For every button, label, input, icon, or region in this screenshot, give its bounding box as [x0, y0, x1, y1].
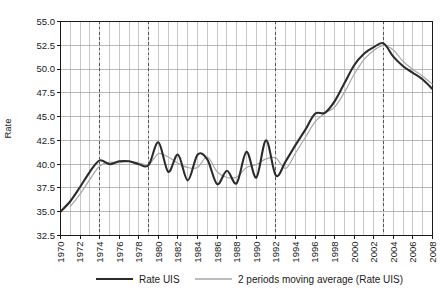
x-tick-label: 1988	[231, 241, 242, 262]
chart-figure: 32.535.037.540.042.545.047.550.052.555.0…	[0, 0, 441, 298]
x-tick-label: 1970	[55, 242, 66, 263]
y-tick-label: 45.0	[37, 111, 56, 122]
y-tick-label: 52.5	[37, 40, 56, 51]
y-axis: 32.535.037.540.042.545.047.550.052.555.0	[37, 16, 61, 241]
x-tick-label: 2000	[349, 242, 360, 263]
x-tick-label: 2002	[368, 242, 379, 263]
y-tick-label: 50.0	[37, 63, 56, 74]
x-tick-label: 1994	[290, 242, 301, 263]
x-tick-label: 2008	[427, 242, 438, 263]
legend-label-moving-average: 2 periods moving average (Rate UIS)	[238, 274, 403, 285]
y-tick-label: 32.5	[37, 230, 56, 241]
x-tick-label: 2006	[407, 242, 418, 263]
x-tick-label: 1992	[270, 242, 281, 263]
y-tick-label: 47.5	[37, 87, 56, 98]
x-tick-label: 1982	[172, 242, 183, 263]
y-tick-label: 37.5	[37, 182, 56, 193]
y-tick-label: 40.0	[37, 159, 56, 170]
y-tick-label: 55.0	[37, 16, 56, 27]
x-tick-label: 1972	[74, 242, 85, 263]
y-axis-title: Rate	[2, 118, 13, 138]
x-tick-label: 1984	[192, 242, 203, 263]
series-line-moving-average	[70, 45, 432, 206]
legend: Rate UIS2 periods moving average (Rate U…	[96, 274, 403, 285]
x-tick-label: 1976	[114, 242, 125, 263]
x-tick-label: 1986	[212, 242, 223, 263]
x-tick-label: 1980	[153, 242, 164, 263]
x-tick-label: 1978	[133, 242, 144, 263]
chart-canvas: 32.535.037.540.042.545.047.550.052.555.0…	[0, 0, 441, 298]
x-tick-label: 1974	[94, 242, 105, 263]
x-tick-label: 2004	[388, 242, 399, 263]
x-axis: 1970197219741976197819801982198419861988…	[55, 236, 438, 263]
y-tick-label: 35.0	[37, 206, 56, 217]
annotation-dashed-lines	[100, 22, 384, 236]
x-tick-label: 1998	[329, 242, 340, 263]
y-tick-label: 42.5	[37, 135, 56, 146]
legend-label-rate-uis: Rate UIS	[139, 274, 180, 285]
x-tick-label: 1990	[251, 242, 262, 263]
grid-vertical-minor	[61, 22, 433, 236]
x-tick-label: 1996	[309, 242, 320, 263]
